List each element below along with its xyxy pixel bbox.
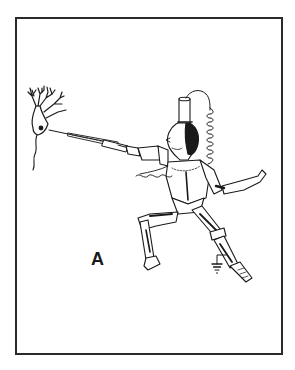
helmet-tube (179, 99, 190, 123)
neuron (28, 86, 66, 170)
nucleus (39, 126, 43, 130)
knight-figure (126, 97, 266, 282)
illustration (0, 0, 295, 370)
micropipette-electrode (49, 130, 132, 152)
panel-label: A (91, 250, 104, 268)
